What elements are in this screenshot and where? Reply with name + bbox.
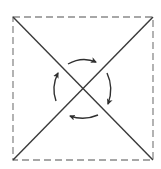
arrow-top-right-icon (68, 59, 96, 64)
arrow-right-down-icon (107, 73, 111, 104)
arrow-left-up-icon (54, 73, 58, 101)
arrow-bottom-left-icon (70, 115, 98, 118)
rotation-diagram (0, 0, 161, 169)
